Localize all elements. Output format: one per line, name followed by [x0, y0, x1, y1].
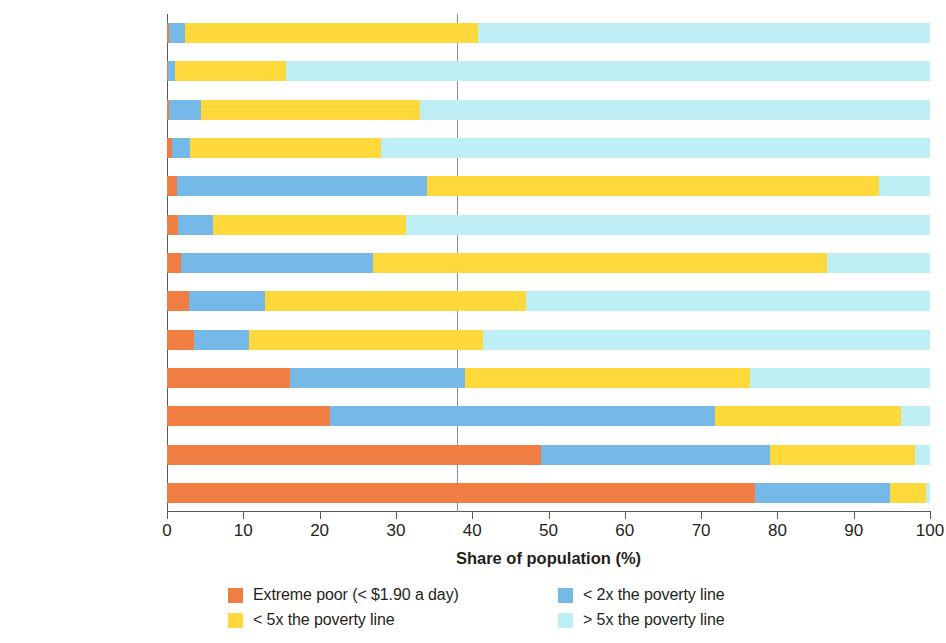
bar-segment	[167, 291, 189, 311]
bar-segment	[755, 483, 890, 503]
chart-row: Congo, Dem. Rep.	[167, 474, 930, 512]
bar-segment	[420, 100, 930, 120]
poverty-share-stacked-bar-chart: ThailandRussian FederationTurkeyChileKyr…	[0, 0, 946, 643]
bar-segment	[167, 483, 755, 503]
legend-swatch-icon	[558, 613, 573, 628]
bar-segment	[167, 445, 541, 465]
bar-segment	[172, 138, 190, 158]
bar-segment	[541, 445, 770, 465]
chart-row: Thailand	[167, 14, 930, 52]
bar-segment	[406, 215, 930, 235]
bar-segment	[169, 100, 201, 120]
x-axis-tick	[320, 511, 321, 519]
chart-row: Togo	[167, 435, 930, 473]
chart-row: Peru	[167, 282, 930, 320]
chart-row: Armenia	[167, 244, 930, 282]
x-axis-tick-label: 100	[916, 521, 944, 541]
chart-row: Russian Federation	[167, 52, 930, 90]
bar-segment	[201, 100, 420, 120]
bar-segment	[167, 253, 181, 273]
x-axis-tick	[777, 511, 778, 519]
bar-segment	[169, 23, 186, 43]
bar-segment	[167, 176, 177, 196]
x-axis-tick-label: 50	[539, 521, 558, 541]
stacked-bar	[167, 23, 930, 43]
bar-segment	[770, 445, 915, 465]
stacked-bar	[167, 253, 930, 273]
legend-label: < 2x the poverty line	[583, 586, 725, 604]
legend-item: Extreme poor (< $1.90 a day)	[228, 586, 558, 604]
bar-segment	[213, 215, 406, 235]
bar-segment	[167, 330, 194, 350]
bar-segment	[167, 406, 330, 426]
stacked-bar	[167, 61, 930, 81]
bar-segment	[265, 291, 527, 311]
stacked-bar	[167, 176, 930, 196]
x-axis-tick-label: 90	[844, 521, 863, 541]
stacked-bar	[167, 100, 930, 120]
bar-segment	[286, 61, 930, 81]
bar-segment	[827, 253, 930, 273]
x-axis-title: Share of population (%)	[167, 549, 930, 568]
legend-label: > 5x the poverty line	[583, 611, 725, 629]
bar-segment	[190, 138, 381, 158]
legend-swatch-icon	[558, 588, 573, 603]
bar-segment	[427, 176, 879, 196]
stacked-bar	[167, 330, 930, 350]
x-axis-tick-label: 0	[162, 521, 171, 541]
bar-segment	[915, 445, 930, 465]
plot-area: ThailandRussian FederationTurkeyChileKyr…	[167, 14, 930, 512]
legend-item: < 5x the poverty line	[228, 611, 558, 629]
bar-segment	[189, 291, 265, 311]
bar-segment	[879, 176, 930, 196]
stacked-bar	[167, 215, 930, 235]
legend-item: > 5x the poverty line	[558, 611, 888, 629]
bar-segment	[465, 368, 750, 388]
stacked-bar	[167, 406, 930, 426]
legend-item: < 2x the poverty line	[558, 586, 888, 604]
x-axis-tick-label: 30	[386, 521, 405, 541]
legend-swatch-icon	[228, 613, 243, 628]
x-axis-tick	[930, 511, 931, 519]
bar-segment	[168, 61, 176, 81]
bar-segment	[483, 330, 930, 350]
chart-row: Honduras	[167, 359, 930, 397]
x-axis-tick-label: 80	[768, 521, 787, 541]
bar-segment	[750, 368, 930, 388]
bar-segment	[526, 291, 930, 311]
bar-segment	[890, 483, 926, 503]
stacked-bar	[167, 445, 930, 465]
stacked-bar	[167, 483, 930, 503]
x-axis-tick-label: 40	[463, 521, 482, 541]
bar-segment	[901, 406, 930, 426]
x-axis-tick	[167, 511, 168, 519]
bar-segment	[330, 406, 715, 426]
bar-segment	[175, 61, 286, 81]
bar-segment	[478, 23, 930, 43]
bar-segment	[177, 176, 427, 196]
bar-segment	[185, 23, 477, 43]
x-axis-tick-label: 20	[310, 521, 329, 541]
stacked-bar	[167, 368, 930, 388]
bar-segment	[194, 330, 249, 350]
legend-label: Extreme poor (< $1.90 a day)	[253, 586, 459, 604]
bar-segment	[715, 406, 901, 426]
bar-segment	[290, 368, 465, 388]
chart-row: Turkey	[167, 91, 930, 129]
x-axis-tick	[625, 511, 626, 519]
stacked-bar	[167, 291, 930, 311]
bar-segment	[249, 330, 482, 350]
chart-row: Chile	[167, 129, 930, 167]
x-axis-tick	[396, 511, 397, 519]
x-axis-tick	[854, 511, 855, 519]
stacked-bar	[167, 138, 930, 158]
x-axis-tick-label: 10	[234, 521, 253, 541]
chart-row: Kyrgyz Republic	[167, 167, 930, 205]
bar-segment	[381, 138, 930, 158]
bar-segment	[167, 368, 290, 388]
bar-segment	[181, 253, 373, 273]
x-axis-tick-label: 70	[692, 521, 711, 541]
bar-segment	[167, 215, 178, 235]
bar-segment	[373, 253, 827, 273]
bar-segment	[926, 483, 930, 503]
